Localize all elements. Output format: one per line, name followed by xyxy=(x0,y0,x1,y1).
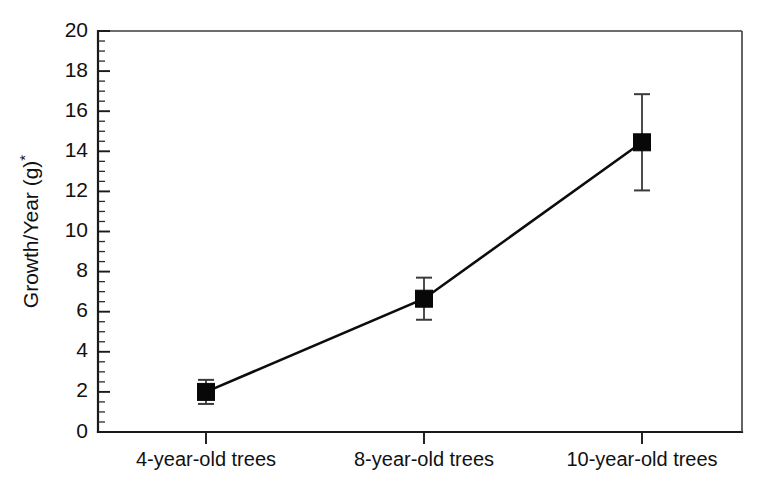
xtick-label-10-year-old-trees: 10-year-old trees xyxy=(566,448,717,470)
ytick-label-0: 0 xyxy=(76,419,88,442)
data-point-4-year-old-trees xyxy=(198,383,215,400)
chart-figure: 0 2 4 6 8 10 12 14 16 18 20 Growth/Year … xyxy=(0,0,779,491)
y-axis-title: Growth/Year (g)* xyxy=(16,155,42,308)
data-point-8-year-old-trees xyxy=(416,290,433,307)
ytick-label-2: 2 xyxy=(76,378,88,401)
ytick-label-8: 8 xyxy=(76,258,88,281)
svg-text:Growth/Year (g)*: Growth/Year (g)* xyxy=(16,155,42,308)
data-point-10-year-old-trees xyxy=(634,134,651,151)
ytick-label-12: 12 xyxy=(65,178,88,201)
ytick-label-4: 4 xyxy=(76,338,88,361)
y-axis-title-text: Growth/Year (g) xyxy=(19,161,42,308)
ytick-label-18: 18 xyxy=(65,58,88,81)
ytick-label-20: 20 xyxy=(65,18,88,41)
xtick-label-4-year-old-trees: 4-year-old trees xyxy=(136,448,276,470)
ytick-label-6: 6 xyxy=(76,298,88,321)
ytick-label-14: 14 xyxy=(65,138,89,161)
ytick-label-10: 10 xyxy=(65,218,88,241)
xtick-label-8-year-old-trees: 8-year-old trees xyxy=(354,448,494,470)
growth-per-year-line-chart: 0 2 4 6 8 10 12 14 16 18 20 Growth/Year … xyxy=(0,0,779,491)
y-axis-title-superscript: * xyxy=(16,155,33,161)
ytick-label-16: 16 xyxy=(65,98,88,121)
x-axis-tick-labels: 4-year-old trees 8-year-old trees 10-yea… xyxy=(136,448,718,470)
chart-background xyxy=(0,0,779,491)
